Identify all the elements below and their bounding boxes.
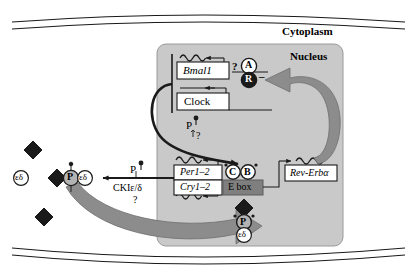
- clock-gene-label: Clock: [184, 95, 210, 107]
- repressor-label: R: [245, 73, 252, 84]
- complex-per-label: P: [67, 171, 73, 182]
- nucleus-label: Nucleus: [290, 50, 327, 62]
- e-box-label: E box: [228, 181, 252, 192]
- phosphate-cytoplasm-label: P: [130, 163, 136, 175]
- cry-gene-label: Cry1–2: [180, 181, 210, 192]
- repressor-minus-sign: –: [259, 70, 265, 82]
- clock-protein-label: C: [229, 166, 236, 177]
- circadian-clock-diagram: Cytoplasm Nucleus Bmal1 Clock ? A R – P …: [0, 0, 415, 275]
- kinase-name-label: CKIε/δ: [113, 182, 142, 193]
- phosphate-marker-cytoplasm: [136, 161, 143, 177]
- free-kinase-label: εδ: [15, 172, 23, 182]
- free-cry-upper-diamond: [24, 141, 42, 159]
- phosphate-nucleus-label: P: [186, 119, 192, 131]
- free-cry-lower-diamond: [35, 208, 53, 226]
- activator-label: A: [245, 59, 252, 70]
- activator-question-mark: ?: [232, 60, 238, 72]
- per-gene-label: Per1–2: [180, 166, 209, 177]
- nucleus-complex-kinase-label: εδ: [238, 229, 246, 239]
- bmal-protein-label: B: [244, 166, 251, 177]
- nucleus-complex-per-label: P: [240, 216, 246, 227]
- bmal1-gene-label: Bmal1: [183, 64, 212, 76]
- kinase-question-mark: ?: [133, 194, 137, 205]
- cytoplasm-label: Cytoplasm: [282, 25, 333, 37]
- diagram-canvas: [0, 0, 415, 275]
- complex-kinase-label: εδ: [79, 172, 87, 182]
- cell-membrane-bottom: [12, 248, 405, 264]
- phosphate-nucleus-question: ?: [196, 130, 200, 141]
- rev-erb-gene-label: Rev-Erbα: [290, 167, 329, 178]
- cell-membrane-top: [12, 15, 405, 29]
